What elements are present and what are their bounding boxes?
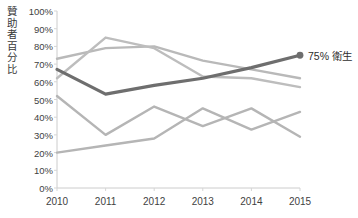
plot-area: [0, 0, 358, 218]
series-line-series-3: [57, 38, 300, 88]
data-series: [57, 38, 300, 153]
end-value-label: 75% 衛生: [308, 48, 352, 63]
data-point-markers: [297, 52, 304, 59]
line-chart: 贊助者百分比 0%10%20%30%40%50%60%70%80%90%100%…: [0, 0, 358, 218]
axes: [54, 11, 300, 191]
series-end-marker-衛生: [297, 52, 304, 59]
series-line-series-4: [57, 96, 300, 137]
